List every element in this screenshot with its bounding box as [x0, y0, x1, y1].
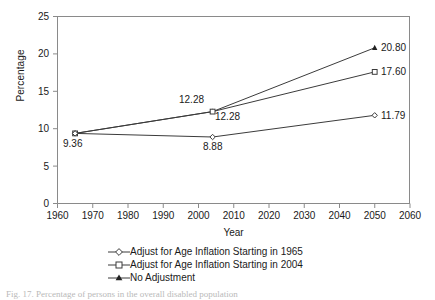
- x-tick-label-2020: 2020: [252, 210, 286, 221]
- x-tick-label-1990: 1990: [146, 210, 180, 221]
- x-tick-label-2050: 2050: [358, 210, 392, 221]
- x-tick-label-1970: 1970: [76, 210, 110, 221]
- legend-item-no-adjustment[interactable]: No Adjustment: [108, 272, 303, 284]
- legend-item-adjust-1965[interactable]: Adjust for Age Inflation Starting in 196…: [108, 246, 303, 258]
- x-axis-title: Year: [57, 227, 410, 238]
- chart-figure: Percentage 25 20 15 10 5 0 1960 1970 198…: [0, 0, 435, 300]
- x-tick-label-2040: 2040: [323, 210, 357, 221]
- x-tick-label-2010: 2010: [217, 210, 251, 221]
- x-tick-label-2000: 2000: [182, 210, 216, 221]
- x-tick-label-1980: 1980: [111, 210, 145, 221]
- x-tick-marks: [58, 204, 411, 209]
- legend-label: No Adjustment: [130, 272, 195, 284]
- chart-legend: Adjust for Age Inflation Starting in 196…: [108, 246, 303, 284]
- point-label-11-79: 11.79: [381, 110, 405, 121]
- point-label-12-28-right: 12.28: [215, 111, 240, 122]
- open-diamond-icon: [108, 246, 130, 258]
- marker-open-diamond: [210, 134, 215, 139]
- y-tick-label-5: 5: [25, 161, 49, 172]
- y-axis-title: Percentage: [15, 26, 26, 126]
- x-tick-label-2030: 2030: [287, 210, 321, 221]
- x-tick-label-2060: 2060: [393, 210, 427, 221]
- x-tick-label-1960: 1960: [41, 210, 75, 221]
- point-label-8-88: 8.88: [203, 141, 222, 152]
- legend-item-adjust-2004[interactable]: Adjust for Age Inflation Starting in 200…: [108, 259, 303, 271]
- point-label-9-36: 9.36: [63, 138, 82, 149]
- y-tick-label-20: 20: [25, 48, 49, 59]
- marker-filled-triangle: [372, 45, 377, 50]
- point-label-12-28-upper: 12.28: [179, 94, 204, 105]
- legend-label: Adjust for Age Inflation Starting in 196…: [130, 246, 303, 258]
- marker-open-diamond: [372, 113, 377, 118]
- marker-open-square: [372, 70, 377, 75]
- series-adjust-2004: [73, 70, 377, 136]
- y-tick-label-0: 0: [25, 198, 49, 209]
- open-square-icon: [108, 259, 130, 271]
- y-tick-label-15: 15: [25, 86, 49, 97]
- legend-label: Adjust for Age Inflation Starting in 200…: [130, 259, 303, 271]
- figure-caption: Fig. 17. Percentage of persons in the ov…: [6, 289, 238, 299]
- axis-frame: [58, 16, 411, 204]
- point-label-17-60: 17.60: [381, 66, 406, 77]
- filled-triangle-icon: [108, 272, 130, 284]
- point-label-20-80: 20.80: [381, 42, 406, 53]
- y-tick-label-10: 10: [25, 123, 49, 134]
- y-tick-label-25: 25: [25, 11, 49, 22]
- y-tick-marks: [53, 17, 58, 204]
